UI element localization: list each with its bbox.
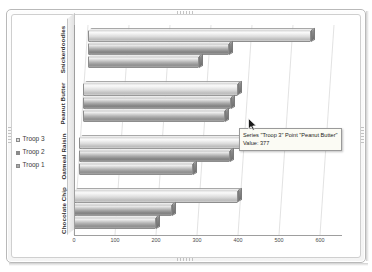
bar-body — [74, 204, 172, 216]
bar-body — [83, 83, 238, 95]
bar[interactable] — [74, 217, 156, 229]
bar-top-face — [79, 161, 197, 164]
square-swatch-icon — [16, 138, 20, 142]
value-axis-tick-label: 300 — [193, 237, 202, 243]
bezel-grip-left-icon — [8, 127, 11, 145]
datapoint-tooltip: Series "Troop 3" Point "Peanut Butter" V… — [239, 128, 342, 151]
category-axis-line — [74, 235, 342, 236]
bar-end-cap — [172, 201, 176, 215]
bar-body — [83, 110, 224, 122]
bezel-grip-bottom-icon — [177, 258, 195, 261]
bar-body — [79, 163, 194, 175]
bar-top-face — [83, 108, 228, 111]
bar-top-face — [88, 54, 202, 57]
bezel-shadow-bottom — [9, 263, 368, 266]
value-axis-tick-label: 500 — [275, 237, 284, 243]
category-axis: SnickerdoodlesPeanut ButterOatmeal Raisi… — [56, 25, 70, 231]
bar-end-cap — [156, 215, 160, 229]
value-axis-line — [74, 25, 75, 235]
bar-body — [74, 217, 156, 229]
bar-body — [74, 190, 238, 202]
value-axis-labels: 0100200300400500600 — [74, 237, 350, 249]
bar-top-face — [74, 188, 242, 191]
bar[interactable] — [83, 83, 238, 95]
bar[interactable] — [74, 190, 238, 202]
bar-top-face — [83, 95, 234, 98]
value-axis-tick-label: 100 — [111, 237, 120, 243]
category-axis-label: Peanut Butter — [56, 79, 70, 129]
legend-item-label: Troop 2 — [23, 149, 45, 156]
bar[interactable] — [83, 110, 224, 122]
value-axis-tick-label: 200 — [152, 237, 161, 243]
bar-top-face — [79, 148, 234, 151]
bar-end-cap — [230, 148, 234, 162]
square-swatch-icon — [16, 164, 20, 168]
bezel-grip-right-icon — [361, 127, 364, 145]
category-axis-label-text: Oatmeal Raisin — [60, 134, 67, 180]
category-axis-label: Chocolate Chip — [56, 186, 70, 236]
legend-item-label: Troop 3 — [23, 136, 45, 143]
bar-end-cap — [199, 54, 203, 68]
bar-body — [83, 97, 231, 109]
category-axis-label: Oatmeal Raisin — [56, 132, 70, 182]
bar[interactable] — [79, 163, 194, 175]
bar-end-cap — [193, 161, 197, 175]
bar-top-face — [88, 41, 233, 44]
category-axis-label-text: Snickerdoodles — [60, 26, 67, 73]
bezel-grip-top-icon — [177, 11, 195, 14]
legend-item-label: Troop 1 — [23, 162, 45, 169]
bar-end-cap — [238, 188, 242, 202]
bar-body — [88, 56, 199, 68]
bar-end-cap — [231, 94, 235, 108]
bar-end-cap — [311, 28, 315, 42]
category-axis-label-text: Chocolate Chip — [60, 187, 67, 234]
chart-window: Troop 3Troop 2Troop 1 SnickerdoodlesPean… — [0, 0, 372, 272]
bar-end-cap — [225, 108, 229, 122]
value-axis-tick-label: 0 — [73, 237, 76, 243]
bar-top-face — [74, 215, 160, 218]
bar[interactable] — [88, 56, 199, 68]
tooltip-line-series: Series "Troop 3" Point "Peanut Butter" — [243, 131, 338, 139]
bar-end-cap — [229, 41, 233, 55]
bar-top-face — [88, 28, 315, 31]
bar-end-cap — [238, 81, 242, 95]
bar[interactable] — [83, 97, 231, 109]
bar-top-face — [83, 81, 241, 84]
value-axis-tick-label: 400 — [234, 237, 243, 243]
square-swatch-icon — [16, 151, 20, 155]
bezel-shadow-right — [366, 11, 369, 261]
value-axis-tick-label: 600 — [316, 237, 325, 243]
bar-chart[interactable]: Troop 3Troop 2Troop 1 SnickerdoodlesPean… — [12, 15, 360, 257]
bar[interactable] — [74, 204, 172, 216]
category-axis-label: Snickerdoodles — [56, 25, 70, 75]
category-axis-label-text: Peanut Butter — [60, 82, 67, 124]
bar-top-face — [74, 202, 176, 205]
tooltip-line-value: Value: 377 — [243, 139, 338, 147]
